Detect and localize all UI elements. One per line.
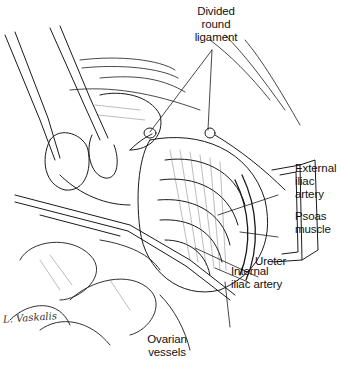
label-psoas-muscle: Psoas muscle: [295, 210, 331, 236]
uterus-adnexa: [45, 93, 161, 205]
lower-clamp-instrument: [15, 195, 235, 300]
shading-hatch: [40, 105, 226, 310]
anatomical-illustration: Divided round ligament External iliac ar…: [0, 0, 350, 370]
label-divided-round-ligament: Divided round ligament: [186, 5, 246, 44]
label-ovarian-vessels: Ovarian vessels: [136, 333, 198, 359]
abdominal-wall-flap: [70, 35, 300, 125]
label-internal-iliac-artery: Internal iliac artery: [231, 265, 282, 291]
round-ligament-stumps: [130, 128, 285, 190]
left-clamp-instrument: [5, 26, 108, 160]
label-external-iliac-artery: External iliac artery: [295, 162, 336, 201]
